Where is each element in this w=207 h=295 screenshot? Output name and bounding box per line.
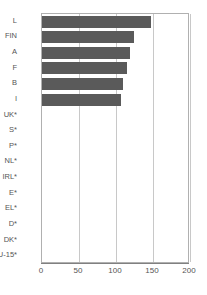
x-tick-label-200: 200	[169, 266, 207, 275]
y-tick-label-NL*: NL*	[0, 157, 17, 165]
x-tick-label-100: 100	[95, 266, 135, 275]
bar-row	[42, 248, 188, 264]
bar-FIN	[42, 31, 134, 43]
bar-A	[42, 47, 130, 59]
y-tick-label-IRL*: IRL*	[0, 173, 17, 181]
y-tick-label-EU-15*: EU-15*	[0, 251, 17, 259]
bar-row	[42, 170, 188, 186]
y-tick-label-A: A	[0, 48, 17, 56]
y-tick-label-FIN: FIN	[0, 32, 17, 40]
bar-row	[42, 139, 188, 155]
bar-row	[42, 77, 188, 93]
gridline-200	[190, 14, 191, 262]
bar-row	[42, 202, 188, 218]
y-tick-label-E*: E*	[0, 189, 17, 197]
x-tick-label-50: 50	[58, 266, 98, 275]
y-tick-label-D*: D*	[0, 220, 17, 228]
bar-row	[42, 155, 188, 171]
bar-row	[42, 92, 188, 108]
bar-row	[42, 186, 188, 202]
bar-row	[42, 233, 188, 249]
y-tick-label-P*: P*	[0, 142, 17, 150]
y-tick-label-F: F	[0, 64, 17, 72]
y-tick-label-DK*: DK*	[0, 236, 17, 244]
bar-row	[42, 217, 188, 233]
y-tick-label-UK*: UK*	[0, 111, 17, 119]
y-tick-label-I: I	[0, 95, 17, 103]
bars-layer	[42, 14, 188, 262]
x-tick-label-150: 150	[132, 266, 172, 275]
x-tick-label-0: 0	[21, 266, 61, 275]
bar-row	[42, 61, 188, 77]
bar-row	[42, 108, 188, 124]
x-axis-line	[41, 263, 189, 264]
bar-row	[42, 45, 188, 61]
bar-row	[42, 123, 188, 139]
y-tick-label-EL*: EL*	[0, 204, 17, 212]
bar-B	[42, 78, 123, 90]
bar-row	[42, 30, 188, 46]
y-tick-label-B: B	[0, 79, 17, 87]
bar-I	[42, 94, 121, 106]
plot-area	[41, 13, 189, 263]
bar-F	[42, 62, 127, 74]
bar-L	[42, 16, 151, 28]
y-tick-label-L: L	[0, 17, 17, 25]
bar-chart: LFINAFBIUK*S*P*NL*IRL*E*EL*D*DK*EU-15* 0…	[0, 0, 207, 295]
bar-row	[42, 14, 188, 30]
y-tick-label-S*: S*	[0, 126, 17, 134]
